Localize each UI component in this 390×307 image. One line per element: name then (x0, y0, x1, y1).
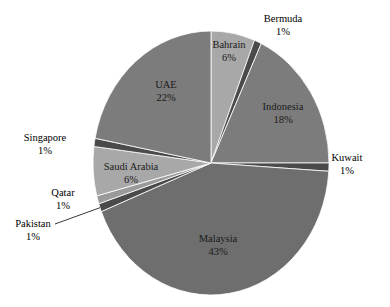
slice-label-text: Kuwait (332, 152, 363, 163)
slice-label-text: 1% (26, 231, 40, 242)
slice-label-text: UAE (155, 79, 177, 90)
pie-chart-figure: Bahrain6%Bermuda1%Indonesia18%Kuwait1%Ma… (0, 0, 390, 307)
pie-label-kuwait: Kuwait1% (332, 152, 363, 176)
slice-label-text: Qatar (51, 187, 75, 198)
slice-label-text: 18% (273, 114, 293, 125)
slice-label-text: 1% (38, 145, 52, 156)
pie-label-pakistan: Pakistan1% (15, 218, 51, 242)
slice-label-text: 6% (222, 52, 236, 63)
slice-label-text: Singapore (24, 132, 67, 143)
pie-chart-svg: Bahrain6%Bermuda1%Indonesia18%Kuwait1%Ma… (0, 0, 390, 307)
slice-label-text: 1% (276, 26, 290, 37)
slice-label-text: Bermuda (264, 13, 303, 24)
slice-label-text: Saudi Arabia (104, 161, 159, 172)
pie-label-singapore: Singapore1% (24, 132, 67, 156)
slice-label-text: Indonesia (263, 101, 304, 112)
slice-label-text: 1% (56, 200, 70, 211)
slice-label-text: Pakistan (15, 218, 51, 229)
slice-label-text: 22% (156, 92, 176, 103)
slice-label-text: 6% (124, 174, 138, 185)
slice-label-text: Bahrain (212, 39, 246, 50)
slice-label-text: Malaysia (199, 233, 238, 244)
slice-label-text: 43% (208, 246, 228, 257)
pie-label-qatar: Qatar1% (51, 187, 75, 211)
pie-label-bermuda: Bermuda1% (264, 13, 303, 37)
slice-label-text: 1% (340, 165, 354, 176)
